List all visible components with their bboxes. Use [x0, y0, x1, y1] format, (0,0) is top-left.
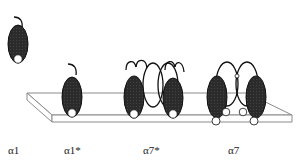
subunit-alpha1	[8, 17, 28, 63]
label-alpha7: α7	[228, 144, 239, 156]
diagram-root: α1 α1* α7* α7	[0, 0, 305, 164]
label-alpha1-star: α1*	[64, 144, 81, 156]
diagram-canvas	[0, 0, 305, 164]
label-alpha1: α1	[8, 144, 19, 156]
subunit-alpha1-star	[62, 64, 82, 117]
label-alpha7-star: α7*	[143, 144, 160, 156]
